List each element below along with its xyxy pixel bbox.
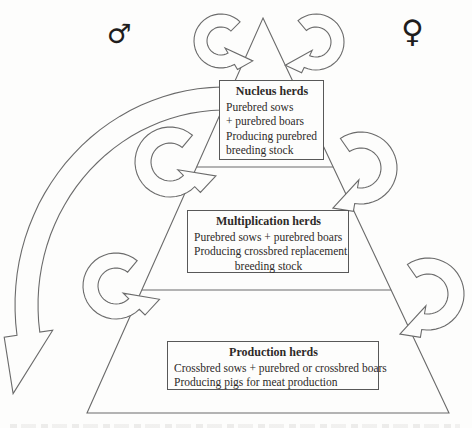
nucleus-herds-title: Nucleus herds xyxy=(226,84,318,99)
female-symbol: ♀ xyxy=(401,16,424,47)
multiplication-line: Purebred sows + purebred boars xyxy=(194,230,343,245)
cycle-arrow-lower-left xyxy=(83,253,160,319)
nucleus-line: Producing purebred xyxy=(226,129,318,144)
nucleus-line: Purebred sows xyxy=(226,100,318,115)
nucleus-herds-box: Nucleus herds Purebred sows + purebred b… xyxy=(219,80,324,160)
cycle-arrow-top-right xyxy=(285,14,344,73)
multiplication-herds-box: Multiplication herds Purebred sows + pur… xyxy=(187,210,349,273)
male-symbol: ♂ xyxy=(106,19,132,47)
production-line: Crossbred sows + purebred or crossbred b… xyxy=(174,361,373,376)
nucleus-line: + purebred boars xyxy=(226,114,318,129)
multiplication-line: Producing crossbred replacement xyxy=(194,244,343,259)
cycle-arrow-mid-right xyxy=(333,132,397,211)
cycle-arrow-top-left xyxy=(194,14,253,70)
multiplication-line: breeding stock xyxy=(194,259,343,274)
nucleus-line: breeding stock xyxy=(226,143,318,158)
production-herds-box: Production herds Crossbred sows + purebr… xyxy=(167,341,379,390)
cycle-arrow-lower-right xyxy=(400,258,464,337)
production-herds-title: Production herds xyxy=(174,345,373,360)
caption-sliver xyxy=(10,424,460,428)
cycle-arrow-mid-left xyxy=(135,127,216,197)
multiplication-herds-title: Multiplication herds xyxy=(194,214,343,229)
breeding-pyramid-diagram: ♂ ♀ Nucleus herds Purebred sows + purebr… xyxy=(0,0,472,428)
production-line: Producing pigs for meat production xyxy=(174,375,373,390)
